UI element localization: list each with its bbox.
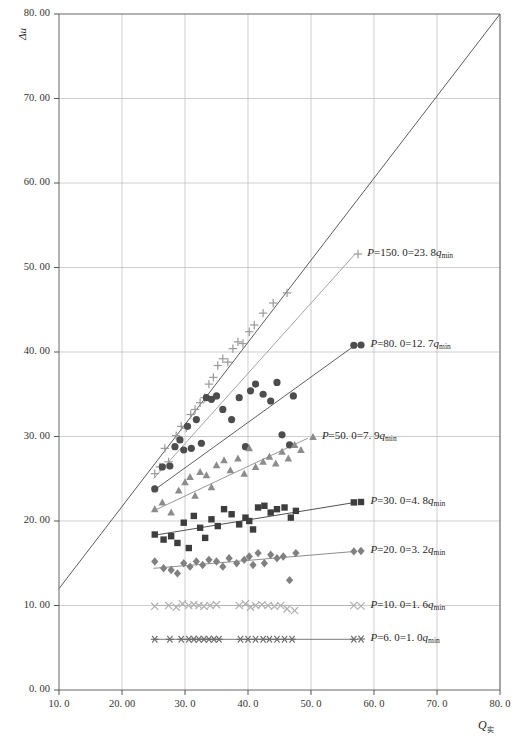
data-point-asterisk [252, 636, 260, 643]
marker-circle [193, 416, 200, 423]
grid-lines [59, 14, 500, 690]
data-point-plus [191, 405, 199, 413]
data-point-triangle [175, 487, 183, 494]
legend-symbol-q: q [428, 598, 434, 610]
marker-triangle [272, 460, 280, 467]
data-point-diamond [261, 559, 268, 567]
data-point-asterisk [273, 636, 281, 643]
data-point-diamond [151, 557, 158, 565]
data-point-triangle [285, 454, 293, 461]
data-point-triangle [196, 468, 204, 475]
marker-circle [188, 445, 195, 452]
marker-square [281, 504, 287, 510]
marker-square [236, 521, 242, 527]
data-point-plus [214, 361, 222, 369]
legend-marker-cross [354, 599, 368, 613]
marker-circle [180, 446, 187, 453]
data-point-square [250, 526, 256, 532]
marker-diamond [273, 554, 280, 562]
marker-diamond [199, 561, 206, 569]
data-point-circle [151, 485, 158, 492]
marker-diamond [219, 562, 226, 570]
legend-label-p300: P=30. 0=4. 8qmin [370, 494, 445, 506]
legend-value-text: =20. 0=3. 2 [377, 543, 428, 555]
data-point-triangle [227, 466, 235, 473]
data-point-plus [151, 469, 159, 477]
marker-circle [213, 392, 220, 399]
data-point-plus [209, 373, 217, 381]
data-point-circle [252, 381, 259, 388]
data-point-circle [193, 416, 200, 423]
legend-marker-triangle [306, 430, 320, 444]
data-point-square [293, 508, 299, 514]
legend-label-p500: P=50. 0=7. 9qmin [322, 429, 397, 441]
data-point-diamond [249, 561, 256, 569]
marker-circle [176, 436, 183, 443]
data-point-circle [188, 445, 195, 452]
data-point-square [288, 514, 294, 520]
marker-triangle [196, 468, 204, 475]
legend-symbol-q: q [428, 494, 434, 506]
data-point-plus [250, 321, 258, 329]
legend-value-text: =30. 0=4. 8 [377, 494, 428, 506]
data-point-plus [239, 339, 247, 347]
marker-square [288, 514, 294, 520]
marker-circle [278, 431, 285, 438]
data-point-diamond [174, 569, 181, 577]
data-point-plus [245, 328, 253, 336]
legend-symbol-p: P [367, 246, 374, 258]
legend-value-text: =150. 0=23. 8 [374, 246, 436, 258]
marker-circle [171, 443, 178, 450]
data-point-cross [151, 603, 158, 610]
data-point-plus [205, 380, 213, 388]
marker-diamond [160, 564, 167, 572]
data-point-triangle [208, 483, 216, 490]
data-point-diamond [186, 562, 193, 570]
legend-marker-plus [351, 247, 365, 261]
marker-diamond [213, 557, 220, 565]
data-point-triangle [272, 460, 280, 467]
marker-diamond [174, 569, 181, 577]
data-point-square [261, 503, 267, 509]
marker-triangle [234, 454, 242, 461]
data-point-circle [267, 397, 274, 404]
data-point-triangle [297, 446, 305, 453]
marker-triangle [208, 483, 216, 490]
data-point-triangle [259, 458, 267, 465]
data-point-circle [290, 392, 297, 399]
marker-diamond [205, 556, 212, 564]
marker-circle [358, 342, 365, 349]
data-point-square [236, 521, 242, 527]
scatter-chart-figure: Δu Q实 0. 0010. 0020. 0030. 0040. 0050. 0… [0, 0, 530, 752]
marker-square [186, 545, 192, 551]
data-point-diamond [199, 561, 206, 569]
legend-value-text: =10. 0=1. 6 [377, 598, 428, 610]
marker-circle [252, 381, 259, 388]
marker-square [293, 508, 299, 514]
marker-square [202, 535, 208, 541]
marker-triangle [186, 473, 194, 480]
legend-marker-square [354, 495, 368, 509]
data-point-triangle [240, 470, 248, 477]
plot-canvas [0, 0, 530, 752]
data-point-cross [291, 607, 298, 614]
data-point-triangle [220, 456, 228, 463]
marker-square [261, 503, 267, 509]
marker-square [197, 525, 203, 531]
marker-diamond [261, 559, 268, 567]
legend-label-p1500: P=150. 0=23. 8qmin [367, 246, 453, 258]
legend-subscript-min: min [439, 342, 451, 351]
data-point-diamond [233, 559, 240, 567]
data-point-triangle [309, 433, 317, 440]
data-point-circle [273, 379, 280, 386]
data-point-plus [354, 250, 362, 258]
data-point-asterisk [265, 636, 273, 643]
data-point-plus [196, 399, 204, 407]
data-point-diamond [219, 562, 226, 570]
marker-circle [219, 406, 226, 413]
data-point-asterisk [357, 636, 365, 643]
marker-diamond [358, 547, 365, 555]
data-point-circle [159, 463, 166, 470]
marker-diamond [286, 576, 293, 584]
marker-square [191, 513, 197, 519]
